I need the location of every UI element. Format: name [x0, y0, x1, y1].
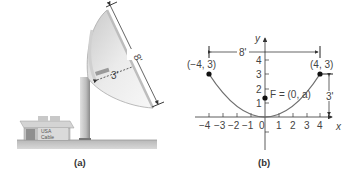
width-label: 8' [239, 47, 247, 58]
x-tick-1: 1 [276, 120, 282, 131]
x-tick-4: 4 [317, 120, 323, 131]
figure: USA Cable 8' 3' (a) x y [0, 0, 351, 184]
y-axis-label: y [254, 33, 261, 44]
point-left [206, 71, 211, 76]
panel-a-caption: (a) [74, 157, 86, 168]
height-label: 3' [326, 91, 334, 102]
x-tick--2: −2 [228, 120, 240, 131]
building-sign-cable: Cable [41, 134, 54, 140]
y-tick-3: 3 [256, 69, 262, 80]
right-point-label: (4, 3) [310, 59, 333, 70]
dish-pole [80, 77, 90, 140]
left-point-label: (−4, 3) [187, 59, 216, 70]
y-tick-4: 4 [256, 55, 262, 66]
height-dimension: 3' [322, 74, 335, 115]
panel-b-parabola-graph: x y −4 −3 −2 −1 0 1 2 3 4 1 [187, 33, 342, 168]
width-dimension: 8' [209, 46, 320, 58]
panel-a-satellite-dish: USA Cable 8' 3' (a) [17, 2, 164, 168]
x-tick-2: 2 [290, 120, 296, 131]
focus-point [262, 95, 267, 100]
point-right [317, 71, 322, 76]
x-tick-0: 0 [259, 120, 265, 131]
x-tick-3: 3 [304, 120, 310, 131]
x-tick--1: −1 [242, 120, 254, 131]
x-tick--3: −3 [214, 120, 226, 131]
dish-depth-label: 3' [111, 70, 119, 81]
y-tick-1: 1 [256, 98, 262, 109]
panel-b-caption: (b) [258, 157, 270, 168]
ground [17, 140, 157, 149]
y-tick-2: 2 [256, 84, 262, 95]
x-tick--4: −4 [199, 120, 211, 131]
x-axis-label: x [335, 121, 342, 132]
cable-building: USA Cable [20, 116, 74, 140]
focus-label: F = (0, a) [270, 89, 311, 100]
